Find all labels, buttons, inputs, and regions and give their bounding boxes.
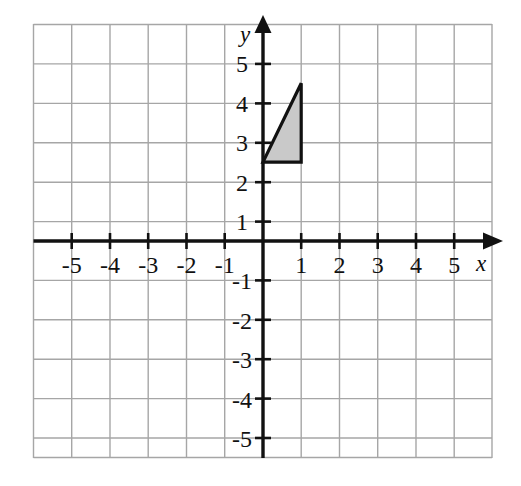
y-tick-label-5: 5 (236, 51, 248, 77)
y-tick-label-2: 2 (236, 170, 248, 196)
y-tick-label-neg-4: -4 (232, 387, 252, 413)
y-tick-label-3: 3 (236, 130, 248, 156)
x-axis (34, 233, 504, 250)
x-tick-label-4: 4 (410, 252, 422, 278)
x-tick-label-neg-4: -4 (100, 252, 120, 278)
shaded-right-triangle (263, 83, 301, 162)
x-tick-label-neg-3: -3 (138, 252, 158, 278)
x-tick-label-3: 3 (372, 252, 384, 278)
y-tick-label-neg-5: -5 (232, 426, 252, 452)
y-axis-label: y (238, 22, 251, 47)
y-tick-label-1: 1 (236, 209, 248, 235)
y-tick-label-neg-3: -3 (232, 347, 252, 373)
x-tick-label-5: 5 (448, 252, 460, 278)
coordinate-plane-figure: -5 -4 -3 -2 -1 1 2 3 4 5 5 4 3 2 1 -1 -2… (0, 0, 521, 486)
y-tick-label-neg-2: -2 (232, 308, 252, 334)
y-tick-label-4: 4 (236, 91, 248, 117)
y-axis (255, 15, 272, 458)
x-tick-label-1: 1 (295, 252, 307, 278)
coordinate-plane-svg: -5 -4 -3 -2 -1 1 2 3 4 5 5 4 3 2 1 -1 -2… (0, 0, 521, 486)
x-axis-arrowhead (483, 233, 503, 250)
x-tick-label-neg-2: -2 (177, 252, 197, 278)
x-tick-label-neg-5: -5 (62, 252, 82, 278)
x-tick-label-2: 2 (334, 252, 346, 278)
y-tick-label-neg-1: -1 (232, 268, 252, 294)
x-axis-label: x (475, 251, 487, 276)
